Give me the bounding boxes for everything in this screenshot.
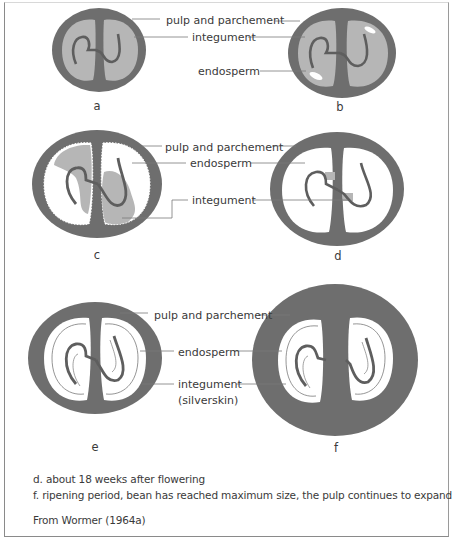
- row2-integument-label: integument: [192, 194, 257, 207]
- caption-source: From Wormer (1964a): [33, 514, 146, 526]
- panel-e-diagram: [28, 302, 162, 414]
- row3-integument-label: integument: [178, 378, 243, 391]
- coffee-fruit-development-diagram: a b pulp and parchement integument endos…: [0, 0, 452, 545]
- row1-endosperm-label: endosperm: [198, 65, 260, 78]
- panel-b-diagram: [288, 8, 396, 98]
- caption-line-f: f. ripening period, bean has reached max…: [33, 489, 452, 501]
- panel-f-diagram: [252, 284, 418, 436]
- row2-endosperm-label: endosperm: [190, 157, 252, 170]
- panel-a-diagram: [52, 8, 146, 92]
- panel-c-label: c: [94, 248, 100, 262]
- panel-e-label: e: [91, 440, 98, 454]
- row3-silverskin-label: (silverskin): [178, 394, 238, 407]
- panel-f-label: f: [334, 441, 339, 455]
- panel-b-label: b: [336, 100, 343, 114]
- panel-d-diagram: [270, 132, 404, 246]
- caption-line-d: d. about 18 weeks after flowering: [33, 473, 205, 485]
- row1-integument-label: integument: [192, 31, 257, 44]
- row2-pulp-label: pulp and parchement: [165, 141, 284, 154]
- row3-endosperm-label: endosperm: [178, 346, 240, 359]
- row1-pulp-label: pulp and parchement: [166, 14, 285, 27]
- panel-d-label: d: [334, 249, 341, 263]
- row3-pulp-label: pulp and parchement: [154, 309, 273, 322]
- panel-a-label: a: [93, 99, 100, 113]
